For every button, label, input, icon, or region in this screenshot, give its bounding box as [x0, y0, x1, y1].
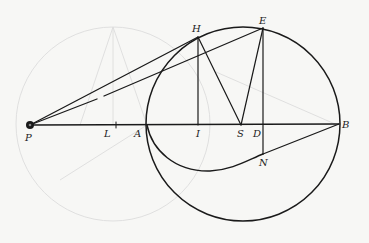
label-D: D: [252, 128, 261, 139]
line-HS: [198, 37, 241, 125]
line-PH: [30, 37, 198, 125]
label-A: A: [133, 128, 141, 139]
point-labels: P L A I S D B H E N: [24, 15, 349, 168]
label-S: S: [237, 128, 244, 139]
faint-diagonal-line-left: [80, 27, 113, 125]
line-PE-segment-1: [30, 99, 97, 125]
line-NB: [263, 124, 339, 154]
line-SE: [241, 28, 263, 125]
axis-line-PB: [30, 124, 339, 125]
point-P-center: [29, 124, 32, 127]
faint-chord-line: [216, 72, 335, 124]
label-H: H: [191, 23, 201, 34]
label-P: P: [24, 132, 32, 143]
conic-arc-AN: [147, 125, 263, 171]
label-L: L: [103, 128, 111, 139]
faint-diagonal-line: [113, 27, 147, 125]
geometry-diagram: P L A I S D B H E N: [0, 0, 369, 243]
label-I: I: [195, 128, 201, 139]
label-B: B: [341, 119, 349, 130]
label-E: E: [258, 15, 267, 26]
label-N: N: [258, 157, 269, 168]
line-PE-segment-2: [104, 28, 263, 96]
